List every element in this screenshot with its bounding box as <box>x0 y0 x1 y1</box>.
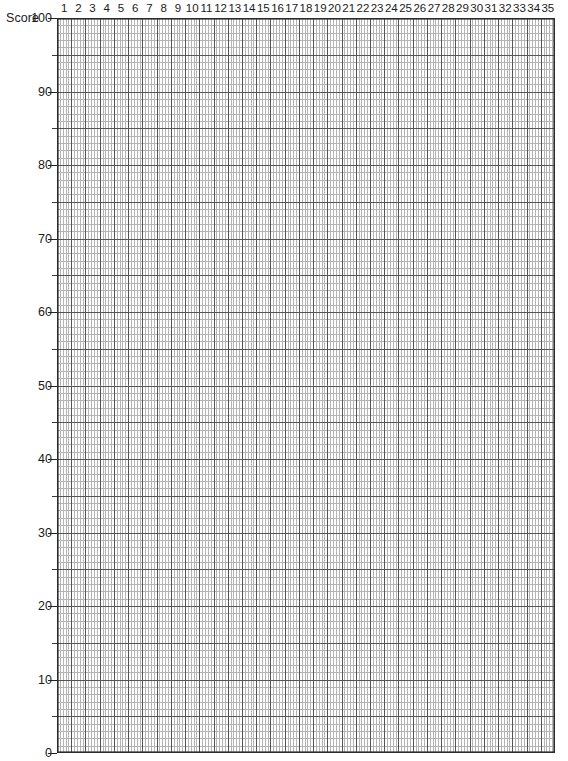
y-tick-label: 10 <box>12 674 52 687</box>
y-tick-label: 60 <box>12 306 52 319</box>
y-tick-label: 20 <box>12 600 52 613</box>
x-tick-label: 12 <box>214 2 228 15</box>
x-tick-label: 31 <box>484 2 498 15</box>
x-tick-label: 3 <box>85 2 99 15</box>
y-tick-label: 50 <box>12 380 52 393</box>
y-major-tick-mark <box>48 606 57 607</box>
x-tick-label: 27 <box>427 2 441 15</box>
y-minor-tick-mark <box>52 569 57 570</box>
x-tick-label: 28 <box>441 2 455 15</box>
y-minor-tick-mark <box>52 349 57 350</box>
x-tick-label: 21 <box>342 2 356 15</box>
y-major-tick-mark <box>48 753 57 754</box>
x-tick-label: 9 <box>171 2 185 15</box>
y-tick-label: 80 <box>12 159 52 172</box>
x-tick-label: 8 <box>157 2 171 15</box>
x-tick-label: 22 <box>356 2 370 15</box>
y-major-tick-mark <box>48 533 57 534</box>
y-minor-tick-mark <box>52 275 57 276</box>
y-major-tick-mark <box>48 165 57 166</box>
x-tick-label: 19 <box>313 2 327 15</box>
y-tick-label: 30 <box>12 527 52 540</box>
y-major-tick-mark <box>48 680 57 681</box>
x-tick-label: 23 <box>370 2 384 15</box>
x-tick-label: 29 <box>455 2 469 15</box>
x-tick-label: 2 <box>71 2 85 15</box>
x-tick-label: 20 <box>327 2 341 15</box>
y-major-tick-mark <box>48 18 57 19</box>
y-axis-labels: 1009080706050403020100 <box>8 0 52 761</box>
x-tick-label: 30 <box>470 2 484 15</box>
x-tick-label: 33 <box>512 2 526 15</box>
x-tick-label: 10 <box>185 2 199 15</box>
y-minor-tick-mark <box>52 716 57 717</box>
x-tick-label: 11 <box>199 2 213 15</box>
x-tick-label: 15 <box>256 2 270 15</box>
x-tick-label: 13 <box>228 2 242 15</box>
x-tick-label: 7 <box>142 2 156 15</box>
x-tick-label: 35 <box>541 2 555 15</box>
y-minor-tick-mark <box>52 496 57 497</box>
y-tick-label: 40 <box>12 453 52 466</box>
y-major-tick-mark <box>48 386 57 387</box>
y-tick-label: 90 <box>12 86 52 99</box>
x-tick-label: 16 <box>270 2 284 15</box>
x-tick-label: 5 <box>114 2 128 15</box>
y-minor-tick-mark <box>52 422 57 423</box>
score-graph-paper: Score 1009080706050403020100 12345678910… <box>0 0 568 761</box>
grid-canvas <box>57 18 555 753</box>
y-minor-tick-mark <box>52 55 57 56</box>
x-tick-label: 26 <box>413 2 427 15</box>
x-tick-label: 25 <box>398 2 412 15</box>
y-minor-tick-mark <box>52 643 57 644</box>
y-major-tick-mark <box>48 312 57 313</box>
x-tick-label: 18 <box>299 2 313 15</box>
x-tick-label: 24 <box>384 2 398 15</box>
x-tick-label: 6 <box>128 2 142 15</box>
y-major-tick-mark <box>48 92 57 93</box>
x-tick-label: 32 <box>498 2 512 15</box>
x-tick-label: 14 <box>242 2 256 15</box>
x-tick-label: 4 <box>100 2 114 15</box>
y-minor-tick-mark <box>52 128 57 129</box>
y-tick-label: 70 <box>12 233 52 246</box>
y-minor-tick-mark <box>52 202 57 203</box>
plot-grid-area[interactable] <box>57 18 555 753</box>
y-tick-label: 100 <box>12 12 52 25</box>
y-tick-label: 0 <box>12 747 52 760</box>
x-tick-label: 17 <box>285 2 299 15</box>
x-axis-labels: 1234567891011121314151617181920212223242… <box>57 2 555 16</box>
x-tick-label: 1 <box>57 2 71 15</box>
x-tick-label: 34 <box>527 2 541 15</box>
y-major-tick-mark <box>48 239 57 240</box>
y-major-tick-mark <box>48 459 57 460</box>
